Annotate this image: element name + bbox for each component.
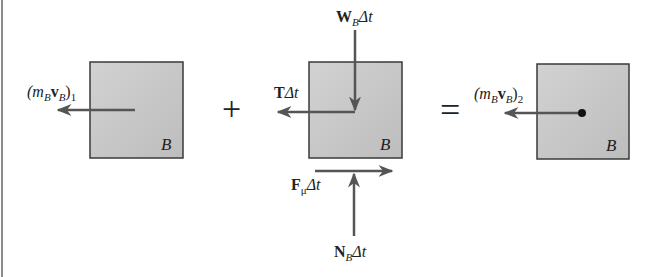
friction-impulse-label: FμΔt bbox=[291, 176, 321, 196]
normal-impulse-label: NBΔt bbox=[334, 243, 367, 263]
diagram-canvas: B (mBvB)1 + B WBΔt TΔt FμΔt NBΔt = bbox=[0, 0, 655, 277]
block-label: B bbox=[606, 136, 617, 155]
block-label: B bbox=[161, 135, 172, 154]
panel-impulses: B WBΔt TΔt FμΔt NBΔt bbox=[274, 8, 402, 263]
panel-final-momentum: B (mBvB)2 bbox=[474, 64, 629, 159]
block-label: B bbox=[380, 135, 391, 154]
equals-operator: = bbox=[440, 90, 460, 130]
momentum-label-final: (mBvB)2 bbox=[474, 85, 523, 105]
tension-impulse-label: TΔt bbox=[274, 84, 299, 101]
weight-impulse-label: WBΔt bbox=[336, 8, 373, 28]
momentum-label-initial: (mBvB)1 bbox=[27, 83, 76, 103]
impulse-momentum-diagram: B (mBvB)1 + B WBΔt TΔt FμΔt NBΔt = bbox=[0, 0, 655, 277]
panel-initial-momentum: B (mBvB)1 bbox=[27, 62, 183, 158]
plus-operator: + bbox=[222, 90, 241, 127]
mass-center-dot bbox=[578, 109, 586, 117]
